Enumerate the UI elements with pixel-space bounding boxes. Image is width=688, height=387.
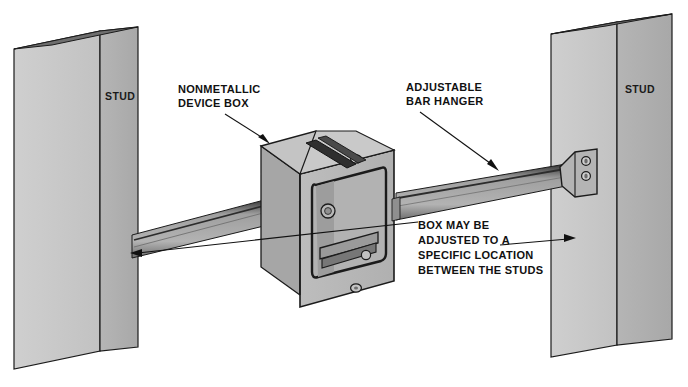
box-rim-screw-bottom-slot (354, 286, 358, 289)
diagram-canvas: STUD STUD (0, 0, 688, 387)
callout-hanger-line-2: BAR HANGER (406, 95, 484, 107)
callout-adjustable-bar-hanger: ADJUSTABLE BAR HANGER (406, 81, 499, 171)
callout-hanger-leader-line (420, 112, 494, 166)
stud-left-front-face (14, 31, 100, 369)
adjustment-note-line-3: SPECIFIC LOCATION (418, 249, 534, 261)
bracket-screw-lower-slot (584, 173, 587, 178)
device-box (261, 131, 394, 307)
stud-right-label: STUD (625, 83, 655, 95)
bar-hanger-left-segment (132, 199, 268, 258)
adjustment-note-line-4: BETWEEN THE STUDS (418, 264, 544, 276)
bar-mid-body (392, 197, 400, 221)
callout-hanger-arrowhead (487, 159, 499, 171)
adjustment-note-line-2: ADJUSTED TO A (418, 234, 510, 246)
bar-hanger-right-segment (396, 164, 566, 220)
adjustment-note-line-1: BOX MAY BE (418, 219, 489, 231)
stud-left: STUD (14, 27, 138, 369)
box-clamp-screw (361, 250, 370, 259)
technical-illustration: STUD STUD (0, 0, 688, 387)
bracket-screw-upper-slot (584, 158, 587, 163)
box-center-screw-head (325, 208, 332, 215)
bar-hanger-mid-segment (392, 197, 400, 221)
callout-nonmetallic-device-box: NONMETALLIC DEVICE BOX (178, 83, 270, 144)
callout-hanger-line-1: ADJUSTABLE (406, 81, 482, 93)
stud-right-side-face (617, 14, 672, 345)
bar-left-body (132, 199, 268, 258)
callout-box-line-1: NONMETALLIC (178, 83, 261, 95)
stud-left-label: STUD (105, 90, 135, 102)
stud-left-side-face (100, 27, 138, 351)
callout-box-line-2: DEVICE BOX (178, 97, 249, 109)
